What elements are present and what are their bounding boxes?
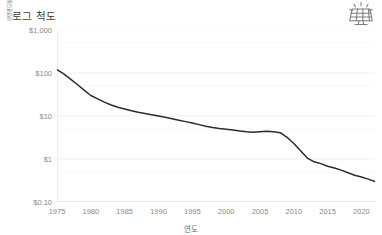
y-tick-label-0: $1,000 <box>29 26 52 35</box>
solar-panel-icon <box>346 1 376 31</box>
x-tick-label-0: 1975 <box>49 207 66 216</box>
y-tick-label-3: $1 <box>44 155 52 164</box>
solar-cost-log-chart: 로그 척도 태양광 모듈의 비용/와트(2023년 불변 달러) $1,000$… <box>0 0 382 235</box>
x-tick-label-1: 1980 <box>82 207 99 216</box>
x-tick-label-7: 2010 <box>285 207 302 216</box>
x-tick-label-5: 2000 <box>218 207 235 216</box>
x-axis-title: 연도 <box>0 223 382 234</box>
x-tick-label-4: 1995 <box>184 207 201 216</box>
y-tick-label-1: $100 <box>35 69 52 78</box>
gridlines <box>57 30 375 202</box>
x-tick-label-3: 1990 <box>150 207 167 216</box>
x-tick-label-6: 2005 <box>252 207 269 216</box>
x-tick-label-8: 2015 <box>319 207 336 216</box>
data-line-solar-cost <box>57 70 375 182</box>
x-tick-label-9: 2020 <box>353 207 370 216</box>
y-axis-title: 태양광 모듈의 비용/와트(2023년 불변 달러) <box>4 0 16 56</box>
plot-svg <box>57 30 375 202</box>
chart-title: 로그 척도 <box>12 8 56 23</box>
y-tick-label-2: $10 <box>39 112 52 121</box>
x-tick-label-2: 1985 <box>116 207 133 216</box>
plot-area: $1,000$100$10$1$0.10 1975198019851990199… <box>57 30 375 202</box>
y-tick-label-4: $0.10 <box>33 198 52 207</box>
